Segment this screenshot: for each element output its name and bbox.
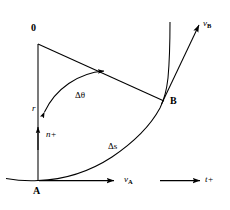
velocity-a-label: vA xyxy=(124,175,133,184)
radius-label: r xyxy=(32,104,36,113)
velocity-b-subscript: B xyxy=(207,22,211,29)
trajectory-curve xyxy=(6,22,170,181)
radius-line-ob xyxy=(38,44,164,101)
normal-direction-label: n+ xyxy=(46,130,57,139)
point-a-label: A xyxy=(33,186,40,196)
physics-diagram: 0 A B r n+ Δθ Δs vA vB t+ xyxy=(0,0,230,210)
origin-label: 0 xyxy=(31,23,36,33)
velocity-a-subscript: A xyxy=(128,178,133,185)
velocity-b-arrow xyxy=(162,25,200,104)
delta-s-label: Δs xyxy=(108,142,117,151)
point-b-label: B xyxy=(170,96,177,106)
delta-theta-label: Δθ xyxy=(75,91,85,100)
velocity-b-label: vB xyxy=(203,19,211,28)
tangent-direction-label: t+ xyxy=(205,175,214,184)
